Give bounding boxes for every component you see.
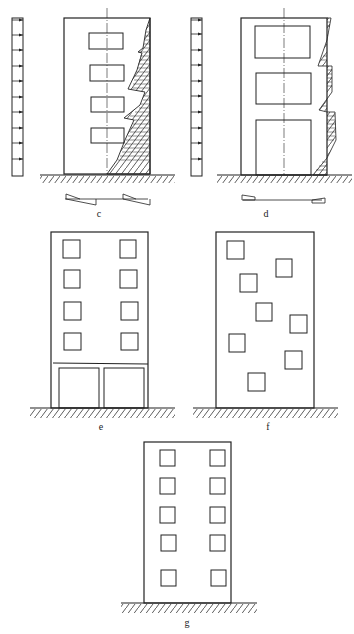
window-f: [256, 303, 272, 321]
section-stress-d: [242, 195, 325, 203]
window-e: [64, 302, 81, 320]
window-g: [211, 570, 226, 586]
window-g: [210, 478, 225, 494]
opening-d-1: [255, 26, 310, 58]
window-g: [160, 450, 175, 466]
window-f: [285, 351, 302, 369]
stress-diagram-c: [107, 18, 150, 174]
structural-diagram: [0, 0, 354, 634]
panel-f: [193, 232, 338, 418]
window-g: [161, 570, 176, 586]
panel-label-c: c: [97, 208, 101, 219]
section-stress-c: [65, 194, 150, 205]
window-g: [210, 507, 225, 523]
window-e: [63, 240, 80, 258]
panel-label-e: e: [99, 421, 103, 432]
window-f: [229, 334, 245, 352]
window-e: [121, 333, 138, 350]
panel-label-g: g: [185, 617, 190, 628]
wind-arrows-d: [191, 20, 202, 159]
floor-slab-e: [53, 363, 148, 364]
opening-d-3: [256, 120, 311, 175]
window-e: [120, 240, 136, 258]
opening-c-3: [91, 97, 124, 112]
panel-e: [30, 232, 175, 418]
load-bar-d: [191, 18, 202, 176]
window-f: [227, 241, 244, 259]
window-f: [276, 259, 292, 277]
window-g: [160, 478, 175, 494]
window-f: [290, 315, 307, 333]
window-f: [248, 373, 265, 391]
window-e: [64, 333, 81, 350]
panel-g: [121, 442, 257, 613]
opening-d-2: [256, 73, 311, 104]
panel-label-f: f: [266, 421, 269, 432]
window-f: [240, 274, 257, 292]
window-g: [161, 535, 176, 551]
panel-d: [191, 8, 352, 203]
window-g: [210, 535, 225, 551]
wind-arrows-c: [12, 20, 23, 159]
panel-label-d: d: [264, 208, 269, 219]
ground-bay-e-1: [59, 368, 99, 408]
opening-c-4: [91, 128, 124, 143]
window-g: [160, 507, 175, 523]
window-e: [121, 302, 138, 320]
ground-bay-e-2: [104, 368, 144, 408]
stress-diagram-d: [313, 18, 336, 175]
window-g: [210, 450, 225, 466]
window-e: [64, 270, 80, 288]
opening-c-1: [89, 33, 123, 49]
panel-c: [12, 8, 175, 205]
window-e: [120, 270, 137, 288]
